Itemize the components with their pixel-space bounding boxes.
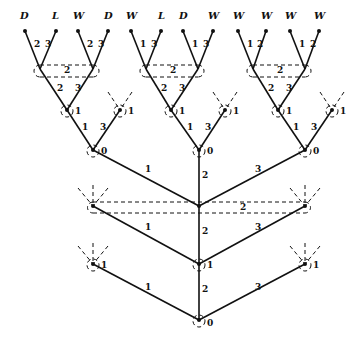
node-label: 0 — [207, 146, 213, 156]
info-set-label: 2 — [170, 65, 176, 75]
edge-label: 2 — [161, 83, 167, 93]
node-label: 1 — [75, 106, 81, 116]
leaf-label: L — [51, 10, 59, 21]
leaf-label: D — [103, 10, 113, 21]
node-label: 0 — [313, 146, 319, 156]
edge-label: 1 — [145, 222, 151, 232]
node-label: 1 — [340, 106, 346, 116]
node-label: 1 — [233, 106, 239, 116]
edge-label: 2 — [202, 170, 208, 180]
edge-label: 3 — [151, 39, 157, 49]
node-label: 1 — [128, 106, 134, 116]
edge-label: 1 — [247, 39, 253, 49]
leaf-label: D — [19, 10, 29, 21]
edge-label: 1 — [140, 39, 146, 49]
edge-label: 1 — [299, 39, 305, 49]
edge-label: 3 — [205, 122, 211, 132]
edge-label: 3 — [75, 83, 81, 93]
edge-label: 1 — [145, 164, 151, 174]
edge-label: 2 — [57, 83, 63, 93]
edge-label: 3 — [286, 83, 292, 93]
leaf-label: W — [285, 10, 298, 21]
leaf-label: L — [157, 10, 165, 21]
leaf-label: W — [261, 10, 274, 21]
leaf-label: W — [208, 10, 221, 21]
lower-edges: 1 2 3 — [93, 206, 305, 264]
leaf-label: W — [314, 10, 327, 21]
edge-label: 1 — [82, 122, 88, 132]
edge-label: 2 — [257, 39, 263, 49]
level3-edges: 1 3 1 3 1 3 — [67, 110, 332, 150]
edge-label: 3 — [255, 164, 261, 174]
edge-label: 3 — [100, 122, 106, 132]
leaf-label: W — [233, 10, 246, 21]
info-set-label: 2 — [277, 65, 283, 75]
edge-label: 2 — [87, 39, 93, 49]
info-set-label: 2 — [240, 202, 246, 212]
leaf-edges — [23, 29, 321, 69]
edge-label: 3 — [203, 39, 209, 49]
leaf-labels: D L W D W L D W W W W W — [19, 10, 327, 21]
level4-nodes: 0 0 0 — [87, 145, 319, 157]
node-label: 0 — [207, 318, 213, 328]
level3-nodes: 1 1 1 1 1 1 — [61, 92, 346, 117]
top-information-sets: 2 2 2 — [34, 65, 311, 77]
info-set-label: 2 — [64, 65, 70, 75]
middle-edges: 1 2 3 — [93, 150, 305, 206]
edge-label: 2 — [202, 284, 208, 294]
root-edges: 1 2 3 — [93, 264, 305, 320]
node-label: 1 — [207, 260, 213, 270]
edge-label: 1 — [187, 122, 193, 132]
edge-label: 1 — [192, 39, 198, 49]
edge-label: 2 — [34, 39, 40, 49]
leaf-label: W — [73, 10, 86, 21]
edge-label: 3 — [98, 39, 104, 49]
node-label: 1 — [313, 260, 319, 270]
edge-label: 2 — [268, 83, 274, 93]
edge-label: 3 — [311, 122, 317, 132]
leaf-label: W — [126, 10, 139, 21]
edge-label: 2 — [310, 39, 316, 49]
leaf-label: D — [178, 10, 188, 21]
level2-edges: 2 3 2 3 2 3 — [40, 69, 305, 110]
edge-label: 1 — [145, 282, 151, 292]
edge-label: 3 — [45, 39, 51, 49]
node-label: 1 — [179, 106, 185, 116]
node-label: 1 — [286, 106, 292, 116]
edge-label: 3 — [179, 83, 185, 93]
edge-label: 2 — [202, 226, 208, 236]
edge-label: 3 — [255, 282, 261, 292]
leaf-edge-labels: 2 3 2 3 1 3 1 3 1 2 1 2 — [34, 39, 316, 49]
game-tree-diagram: D L W D W L D W W W W W 2 3 2 3 1 3 1 3 — [0, 0, 364, 344]
edge-label: 3 — [255, 222, 261, 232]
edge-label: 1 — [293, 122, 299, 132]
